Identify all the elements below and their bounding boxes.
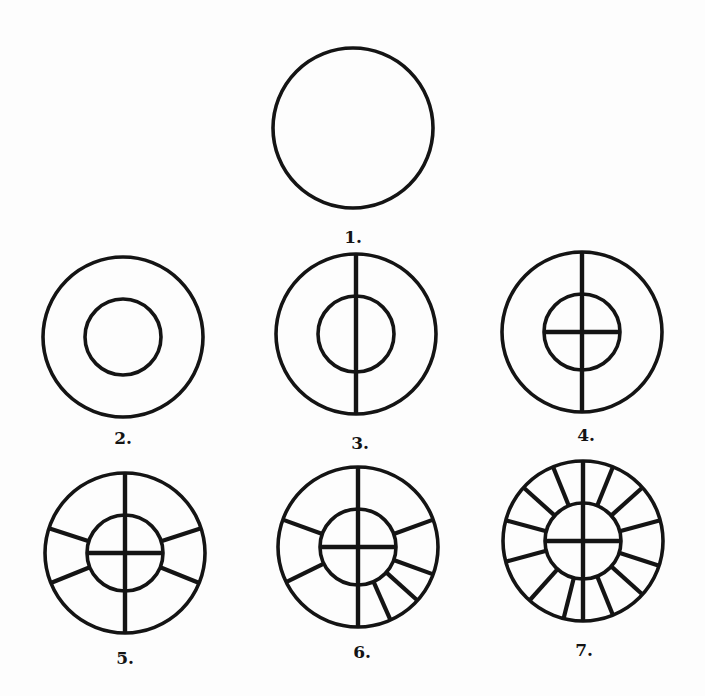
stage-3: 3. [276,254,436,453]
radial-spoke [286,564,324,582]
radial-spoke [611,488,642,516]
stage-4: 4. [502,252,662,445]
stage-label: 2. [114,428,132,448]
stage-5: 5. [45,473,205,668]
radial-spoke [619,553,659,566]
diagram-canvas: 1.2.3.4.5.6.7. [0,0,705,696]
radial-spoke [394,520,434,534]
stages-figure: 1.2.3.4.5.6.7. [0,0,705,696]
radial-spoke [611,566,642,594]
radial-spoke [283,520,323,534]
stage-label: 1. [344,227,362,247]
stage-2: 2. [43,257,203,448]
radial-spoke [506,551,547,562]
stage-label: 3. [351,433,369,453]
radial-spoke [553,467,569,506]
stage-label: 6. [353,642,371,662]
stage-1: 1. [273,48,433,247]
stage-7: 7. [503,461,663,660]
outer-circle [273,48,433,208]
radial-spoke [374,582,391,620]
radial-spoke [564,578,574,619]
radial-spoke [597,467,613,506]
inner-circle [85,299,161,375]
stage-label: 5. [116,648,134,668]
radial-spoke [530,569,558,600]
outer-circle [43,257,203,417]
radial-spoke [620,520,661,531]
radial-spoke [506,520,547,531]
radial-spoke [386,572,417,600]
radial-spoke [49,528,89,541]
stage-label: 7. [575,640,593,660]
radial-spoke [597,576,613,615]
radial-spoke [394,560,434,574]
radial-spoke [524,488,555,516]
radial-spoke [51,567,90,583]
stage-6: 6. [278,467,438,662]
radial-spoke [160,567,199,583]
stage-label: 4. [577,425,595,445]
radial-spoke [161,528,201,541]
